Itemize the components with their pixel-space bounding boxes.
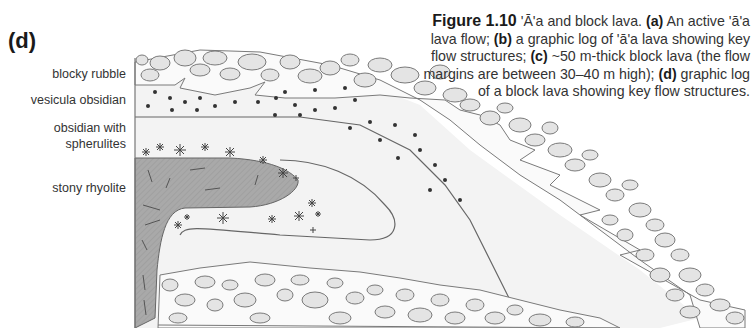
panel-label: (d) [8,28,36,54]
label-vesicula-obsidian: vesicula obsidian [31,92,126,108]
caption-tag-b: (b) [494,31,512,47]
figure-caption: Figure 1.10 'Ā'a and block lava. (a) An … [410,12,750,101]
label-stony-rhyolite: stony rhyolite [52,180,126,196]
label-obsidian-spherulites: obsidian with spherulites [54,120,126,152]
label-obsidian-line1: obsidian with [54,120,126,136]
caption-title: 'Ā'a and block lava. [521,13,642,29]
figure-page: (d) blocky rubble vesicula obsidian obsi… [0,0,756,328]
caption-tag-a: (a) [646,13,663,29]
caption-tag-d: (d) [659,66,677,82]
label-obsidian-line2: spherulites [54,136,126,152]
caption-tag-c: (c) [530,48,547,64]
label-blocky-rubble: blocky rubble [52,66,126,82]
figure-number: Figure 1.10 [432,12,516,29]
